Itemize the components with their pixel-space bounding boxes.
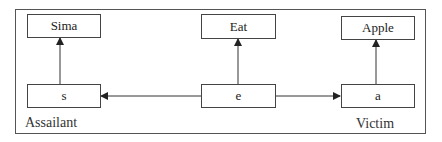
node-sima: Sima (27, 14, 101, 38)
node-eat: Eat (201, 14, 276, 39)
node-s: s (27, 84, 101, 108)
node-e: e (201, 84, 276, 108)
label-assailant: Assailant (25, 115, 77, 131)
node-a: a (341, 84, 415, 108)
node-apple: Apple (341, 16, 415, 40)
label-victim: Victim (356, 116, 394, 132)
